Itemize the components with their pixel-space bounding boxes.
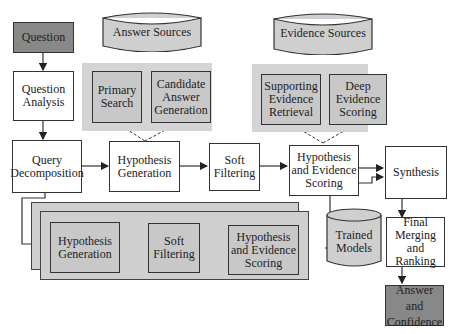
deep-evidence-scoring-label: Deep Evidence Scoring [330,80,386,119]
question-analysis-label: Question Analysis [14,83,73,109]
answer-sources-label: Answer Sources [113,26,191,39]
parallel-soft-filtering-node: Soft Filtering [148,223,200,273]
query-decomposition-label: Query Decomposition [10,154,83,180]
question-analysis-node: Question Analysis [13,71,74,121]
hypothesis-generation-node: Hypothesis Generation [109,141,180,192]
deep-evidence-scoring-node: Deep Evidence Scoring [329,74,387,125]
question-label: Question [22,31,65,44]
synthesis-node: Synthesis [385,146,447,199]
answer-confidence-label: Answer and Confidence [386,282,443,330]
trained-models-label: Trained Models [325,229,383,255]
final-merging-ranking-label: Final Merging and Ranking [387,216,444,268]
hypothesis-evidence-scoring-node: Hypothesis and Evidence Scoring [289,145,359,196]
trained-models-cylinder: Trained Models [325,207,383,269]
evidence-sources-cylinder: Evidence Sources [272,12,374,55]
supporting-evidence-retrieval-label: Supporting Evidence Retrieval [262,80,320,119]
question-node: Question [13,22,74,53]
final-merging-ranking-node: Final Merging and Ranking [386,217,445,267]
answer-confidence-node: Answer and Confidence [385,285,444,326]
primary-search-node: Primary Search [92,71,142,123]
supporting-evidence-retrieval-node: Supporting Evidence Retrieval [261,74,321,125]
parallel-hypothesis-generation-label: Hypothesis Generation [51,235,119,261]
parallel-hypothesis-evidence-scoring-node: Hypothesis and Evidence Scoring [228,225,299,275]
candidate-answer-generation-node: Candidate Answer Generation [151,71,211,123]
soft-filtering-label: Soft Filtering [210,154,259,180]
hypothesis-evidence-scoring-label: Hypothesis and Evidence Scoring [290,151,358,190]
primary-search-label: Primary Search [93,84,141,110]
candidate-answer-generation-label: Candidate Answer Generation [152,78,210,117]
parallel-soft-filtering-label: Soft Filtering [149,235,199,261]
soft-filtering-node: Soft Filtering [209,143,260,191]
evidence-sources-label: Evidence Sources [280,27,366,40]
synthesis-label: Synthesis [393,166,439,179]
query-decomposition-node: Query Decomposition [12,140,82,193]
parallel-hypothesis-evidence-scoring-label: Hypothesis and Evidence Scoring [229,231,298,270]
hypothesis-generation-label: Hypothesis Generation [110,154,179,180]
parallel-hypothesis-generation-node: Hypothesis Generation [50,222,120,273]
answer-sources-cylinder: Answer Sources [101,12,203,52]
